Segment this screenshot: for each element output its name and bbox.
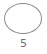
rating-option[interactable]: 5 — [0, 0, 47, 54]
option-label: 5 — [0, 37, 47, 50]
radio-circle-icon[interactable] — [4, 3, 42, 34]
